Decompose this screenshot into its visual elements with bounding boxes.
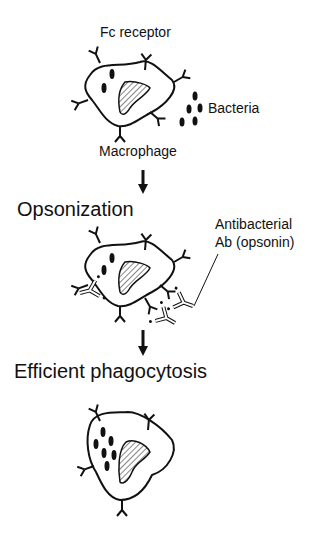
arrow-down-icon: [138, 330, 148, 356]
arrow-down-icon: [138, 170, 148, 194]
macrophage-label: Macrophage: [99, 143, 177, 159]
antibody-label-leader: [194, 254, 218, 306]
opsonization-title: Opsonization: [17, 198, 134, 221]
opsonization-diagram: [0, 0, 322, 534]
antibody-label-line2: Ab (opsonin): [215, 234, 294, 250]
macrophage-cell-3: [77, 404, 174, 516]
macrophage-cell-2: [71, 226, 190, 322]
bacteria-cluster: [180, 92, 203, 127]
fc-receptor-label: Fc receptor: [100, 24, 171, 40]
macrophage-cell-1: [71, 46, 190, 142]
phagocytosis-title: Efficient phagocytosis: [14, 360, 207, 383]
antibody-label-line1: Antibacterial: [215, 216, 292, 232]
antibody-opsonins: [77, 275, 198, 334]
bacteria-label: Bacteria: [208, 100, 259, 116]
